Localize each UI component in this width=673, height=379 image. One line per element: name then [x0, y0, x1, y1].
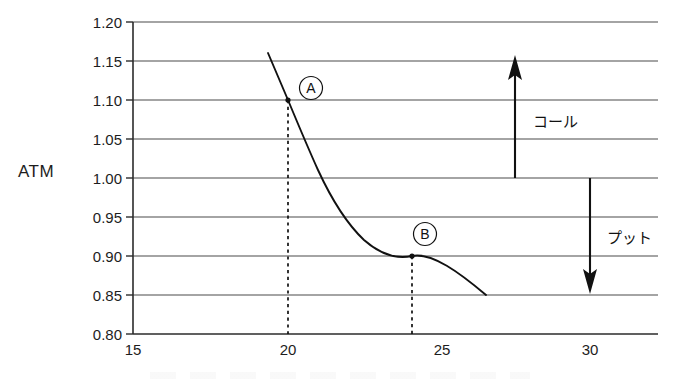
gridlines: [133, 22, 658, 295]
put-label: プット: [607, 229, 652, 247]
ytick-label-4: 1.00: [93, 170, 122, 187]
marker-b: B: [414, 223, 437, 246]
xtick-label-3: 30: [582, 341, 599, 358]
put-arrow: [583, 178, 597, 294]
ytick-label-2: 1.10: [93, 92, 122, 109]
skew-curve: [268, 53, 486, 295]
xtick-label-0: 15: [125, 341, 142, 358]
ytick-label-0: 1.20: [93, 14, 122, 31]
ytick-label-6: 0.90: [93, 248, 122, 265]
ytick-label-1: 1.15: [93, 53, 122, 70]
atm-axis-label: ATM: [18, 162, 54, 182]
call-arrow: [508, 55, 522, 178]
xtick-label-1: 20: [280, 341, 297, 358]
ytick-label-3: 1.05: [93, 131, 122, 148]
bottom-cropped-caption: [150, 372, 530, 379]
call-label: コール: [533, 113, 578, 131]
x-tick-labels: 15 20 25 30: [125, 341, 599, 358]
data-point-b: [409, 253, 414, 258]
marker-a-letter: A: [306, 80, 316, 96]
y-tickmarks: [126, 22, 133, 334]
ytick-label-7: 0.85: [93, 287, 122, 304]
y-tick-labels: 1.20 1.15 1.10 1.05 1.00 0.95 0.90 0.85 …: [93, 14, 122, 343]
xtick-label-2: 25: [434, 341, 451, 358]
ytick-label-5: 0.95: [93, 209, 122, 226]
marker-a: A: [300, 77, 323, 100]
data-point-a: [285, 97, 290, 102]
ytick-label-8: 0.80: [93, 326, 122, 343]
marker-b-letter: B: [420, 226, 429, 242]
